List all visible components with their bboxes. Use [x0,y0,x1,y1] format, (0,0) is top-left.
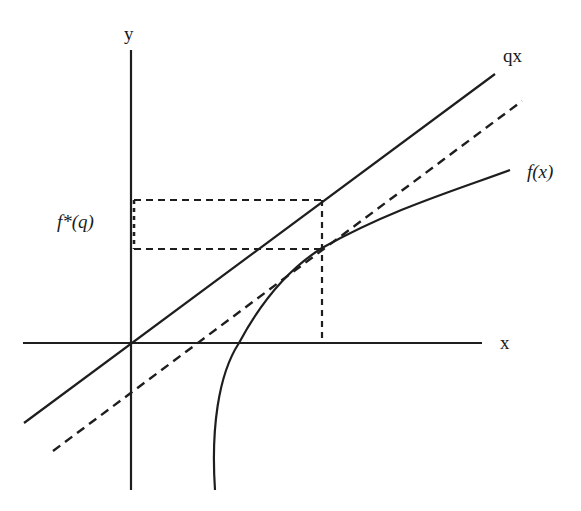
conjugate-value-label: f*(q) [57,212,94,231]
qx-line-label: qx [503,46,522,65]
x-axis-label: x [500,333,510,352]
y-axis-label: y [124,24,134,43]
fx-curve-label: f(x) [527,162,553,181]
curve-fx [214,170,510,490]
conjugate-function-diagram [0,0,581,511]
